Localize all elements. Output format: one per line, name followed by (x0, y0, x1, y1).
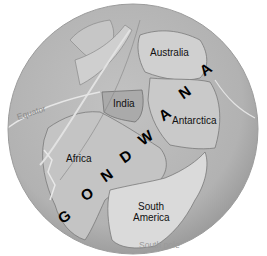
label-south-america-line2: America (133, 212, 170, 223)
label-south-pole: South pole (139, 240, 180, 250)
label-antarctica: Antarctica (172, 115, 217, 126)
label-india: India (113, 98, 135, 109)
label-africa: Africa (66, 153, 92, 164)
gondwana-globe-map: Australia India Antarctica Africa South … (0, 0, 267, 256)
label-australia: Australia (150, 47, 189, 58)
label-south-america-line1: South (138, 201, 164, 212)
